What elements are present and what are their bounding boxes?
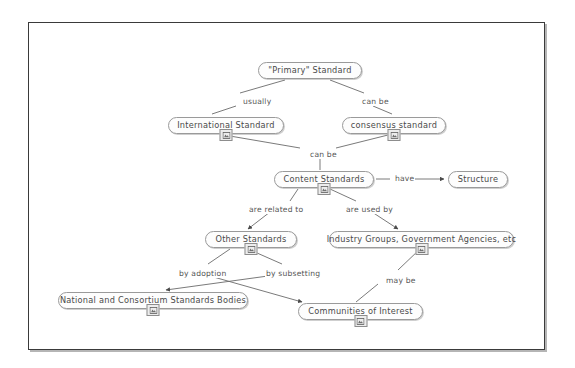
node-communities-of-interest[interactable]: Communities of Interest [298, 303, 423, 320]
edge-label-are-used-by: are used by [345, 206, 394, 214]
edge-label-can-be-content: can be [309, 151, 338, 159]
node-industry-groups[interactable]: Industry Groups, Government Agencies, et… [329, 231, 514, 248]
edge-label-by-subsetting: by subsetting [265, 270, 321, 278]
node-structure[interactable]: Structure [448, 171, 508, 188]
diagram-canvas: "Primary" Standard International Standar… [0, 0, 575, 368]
node-content-standards[interactable]: Content Standards [274, 171, 374, 188]
node-standards-bodies[interactable]: National and Consortium Standards Bodies [58, 292, 248, 309]
node-other-standards[interactable]: Other Standards [205, 231, 297, 248]
edge-label-may-be: may be [385, 277, 417, 285]
node-consensus-standard[interactable]: consensus standard [342, 117, 446, 134]
resource-icon[interactable] [147, 304, 160, 316]
edge-label-can-be-consensus: can be [361, 98, 390, 106]
node-label: Structure [450, 175, 506, 183]
resource-icon[interactable] [245, 243, 258, 255]
resource-icon[interactable] [354, 315, 367, 327]
resource-icon[interactable] [318, 183, 331, 195]
node-international-standard[interactable]: International Standard [168, 117, 284, 134]
edge-label-usually: usually [242, 98, 272, 106]
edge-label-have: have [394, 175, 415, 183]
edge-label-by-adoption: by adoption [178, 270, 227, 278]
edge-label-are-related-to: are related to [248, 206, 304, 214]
resource-icon[interactable] [415, 243, 428, 255]
resource-icon[interactable] [388, 129, 401, 141]
node-label: "Primary" Standard [260, 66, 360, 74]
resource-icon[interactable] [220, 129, 233, 141]
node-primary-standard[interactable]: "Primary" Standard [258, 62, 362, 79]
